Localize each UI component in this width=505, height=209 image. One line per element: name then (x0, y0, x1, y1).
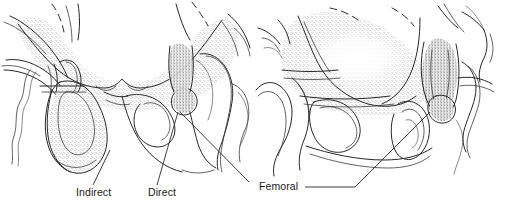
illustration-canvas: Indirect Direct (0, 0, 505, 209)
left-panel-inguinal-hernia: Indirect Direct (2, 2, 250, 198)
label-direct: Direct (148, 186, 176, 198)
abdominal-dome-mass (282, 8, 428, 116)
hernia-illustration-figure: Indirect Direct (0, 0, 505, 209)
right-panel-femoral-hernia: Femoral (256, 4, 494, 192)
vessel-lines-left (12, 70, 36, 166)
right-extension-leader-line (180, 112, 249, 182)
label-femoral: Femoral (259, 180, 298, 192)
femoral-leader-line (305, 112, 430, 187)
label-indirect: Indirect (76, 186, 111, 198)
ischiopubic-ramus (306, 146, 432, 168)
direct-leader-line (157, 112, 178, 185)
femoral-vessels-descending (454, 62, 494, 174)
